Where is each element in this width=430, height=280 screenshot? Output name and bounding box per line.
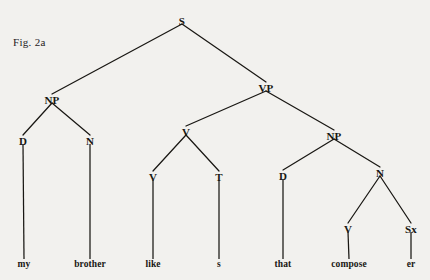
tree-leaves-group: mybrotherlikesthatcomposeer xyxy=(18,259,416,269)
tree-leaf-label-compose: compose xyxy=(331,259,367,269)
tree-edge-np2-n2 xyxy=(334,139,380,167)
tree-node-label-d1: D xyxy=(19,135,27,147)
tree-node-label-d2: D xyxy=(279,170,287,182)
tree-edge-v1-t xyxy=(186,135,219,171)
tree-node-label-sx: Sx xyxy=(405,223,417,235)
tree-stem-leaf-my xyxy=(23,144,24,259)
tree-stem-leaf-compose xyxy=(348,232,349,259)
tree-edge-np1-n1 xyxy=(52,103,90,135)
tree-edge-s-np1 xyxy=(52,24,182,94)
tree-edge-v1-v2 xyxy=(153,135,186,171)
tree-node-label-v3: V xyxy=(344,223,352,235)
figure-canvas: Fig. 2a SNPVPDNVNPVTDNVSx mybrotherlikes… xyxy=(0,0,430,280)
tree-leaf-label-my: my xyxy=(18,259,31,269)
tree-node-label-vp: VP xyxy=(258,82,273,94)
tree-node-label-v2: V xyxy=(149,171,157,183)
tree-leaf-label-er: er xyxy=(407,259,416,269)
tree-node-label-n2: N xyxy=(376,167,384,179)
tree-leaf-label-that: that xyxy=(275,259,292,269)
tree-edge-vp-v1 xyxy=(186,91,266,126)
tree-node-label-np1: NP xyxy=(44,94,59,106)
tree-edge-np2-d2 xyxy=(283,139,334,170)
tree-leaf-stems-group xyxy=(23,144,411,259)
tree-node-label-v1: V xyxy=(182,126,190,138)
syntax-tree-diagram: SNPVPDNVNPVTDNVSx mybrotherlikesthatcomp… xyxy=(0,0,430,280)
tree-edge-vp-np2 xyxy=(266,91,334,130)
tree-edge-np1-d1 xyxy=(23,103,52,135)
tree-leaf-label-s: s xyxy=(217,259,221,269)
tree-node-label-s: S xyxy=(179,15,185,27)
tree-edge-n2-sx xyxy=(380,176,411,223)
tree-node-label-n1: N xyxy=(86,135,94,147)
tree-leaf-label-brother: brother xyxy=(74,259,106,269)
tree-edge-n2-v3 xyxy=(348,176,380,223)
tree-leaf-label-like: like xyxy=(145,259,160,269)
tree-node-label-np2: NP xyxy=(326,130,341,142)
tree-edge-s-vp xyxy=(182,24,266,82)
tree-node-label-t: T xyxy=(215,171,223,183)
tree-edges-group xyxy=(23,24,411,223)
